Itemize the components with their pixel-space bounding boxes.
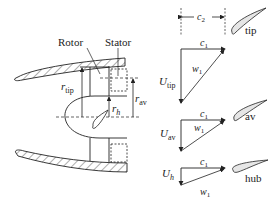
- svg-text:c1: c1: [200, 37, 208, 50]
- blade-hub-label: hub: [245, 172, 262, 184]
- r-h-label: rh: [112, 102, 120, 117]
- compressor-velocity-diagram: Rotor Stator rtip rh rav c2 c1 w1 Utip t…: [0, 0, 278, 202]
- svg-text:w1: w1: [200, 186, 211, 199]
- svg-text:c2: c2: [197, 11, 205, 24]
- r-av-label: rav: [135, 92, 147, 107]
- blade-tip-label: tip: [245, 24, 257, 36]
- c2-dimension: c2: [181, 8, 225, 36]
- svg-text:w1: w1: [192, 63, 203, 76]
- svg-text:c1: c1: [200, 156, 208, 169]
- hub-airfoil-small: [93, 110, 108, 128]
- svg-text:Uav: Uav: [160, 127, 176, 142]
- rotor-label: Rotor: [58, 36, 83, 48]
- velocity-triangle-tip: c1 w1 Utip: [159, 37, 225, 103]
- blade-av-label: av: [245, 110, 256, 122]
- svg-text:c1: c1: [200, 108, 208, 121]
- velocity-triangle-hub: c1 w1 Uh: [162, 156, 225, 199]
- blade-hub-icon: [233, 160, 268, 172]
- casing-upper: [15, 58, 125, 81]
- casing-lower: [15, 150, 127, 172]
- svg-text:w1: w1: [194, 122, 205, 135]
- r-tip-label: rtip: [61, 80, 74, 95]
- stator-label: Stator: [105, 36, 132, 48]
- svg-text:Utip: Utip: [159, 75, 175, 90]
- velocity-triangle-av: c1 w1 Uav: [160, 108, 225, 151]
- svg-text:Uh: Uh: [162, 167, 174, 182]
